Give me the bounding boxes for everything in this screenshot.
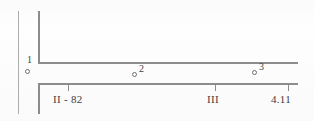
data-point-marker-1[interactable] bbox=[25, 69, 30, 74]
outer-vertical-rule bbox=[18, 11, 19, 114]
diagram-canvas: 1 2 3 II - 82 III 4.11 bbox=[0, 0, 314, 121]
axis-tick-3 bbox=[288, 83, 289, 91]
scan-grain-overlay bbox=[0, 0, 314, 121]
data-point-marker-2[interactable] bbox=[132, 72, 137, 77]
axis-tick-label-1: II - 82 bbox=[53, 93, 83, 105]
data-point-marker-3[interactable] bbox=[252, 70, 257, 75]
axis-tick-1 bbox=[68, 83, 69, 91]
axis-tick-label-3: 4.11 bbox=[271, 93, 291, 105]
data-point-label-3: 3 bbox=[259, 62, 264, 72]
data-point-label-1: 1 bbox=[27, 55, 32, 65]
data-point-label-2: 2 bbox=[139, 64, 144, 74]
axis-tick-2 bbox=[215, 83, 216, 91]
inner-vertical-rule-upper bbox=[38, 11, 40, 63]
lower-axis-line bbox=[38, 83, 298, 85]
inner-vertical-rule-lower bbox=[38, 83, 40, 114]
axis-tick-label-2: III bbox=[207, 93, 219, 105]
